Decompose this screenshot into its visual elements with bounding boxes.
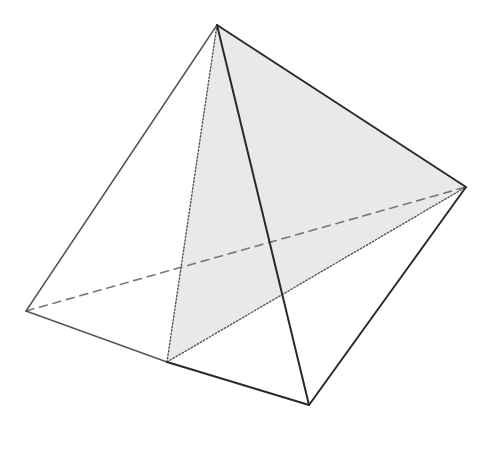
pyramid-diagram (0, 0, 490, 452)
